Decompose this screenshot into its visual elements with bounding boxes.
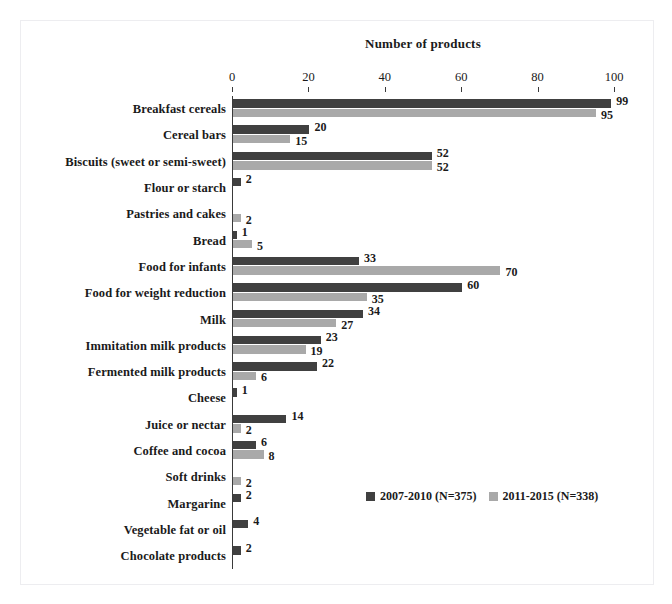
bar-series-2011-2015 [233,424,241,432]
chart-row: Breakfast cereals9995 [0,96,672,122]
bar-series-2011-2015 [233,266,500,274]
bar-series-2007-2010 [233,152,432,160]
bar-group: 9995 [233,96,672,122]
category-label: Pastries and cakes [126,207,226,222]
bar-value-label: 33 [364,251,376,266]
bar-value-label: 95 [601,108,613,123]
category-label: Biscuits (sweet or semi-sweet) [65,154,226,169]
bar-series-2011-2015 [233,109,596,117]
bar-value-label: 2 [246,488,252,503]
x-axis-tick-label: 80 [531,70,544,85]
legend-item: 2007-2010 (N=375) [366,489,477,504]
bar-series-2007-2010 [233,257,359,265]
bar-series-2007-2010 [233,283,462,291]
bar-value-label: 52 [437,146,449,161]
bar-series-2007-2010 [233,520,248,528]
bar-series-2011-2015 [233,293,367,301]
bar-series-2007-2010 [233,362,317,370]
chart-legend: 2007-2010 (N=375)2011-2015 (N=338) [366,489,598,504]
category-label: Milk [200,312,226,327]
category-label: Coffee and cocoa [133,444,226,459]
bar-series-2007-2010 [233,441,256,449]
category-label: Immitation milk products [86,338,226,353]
chart-row: Cereal bars2015 [0,122,672,148]
legend-item: 2011-2015 (N=338) [489,489,599,504]
bar-value-label: 99 [616,94,628,109]
category-label: Vegetable fat or oil [124,522,226,537]
bar-series-2011-2015 [233,161,432,169]
bar-value-label: 2 [246,541,252,556]
bar-value-label: 6 [261,435,267,450]
category-label: Breakfast cereals [133,102,226,117]
bar-value-label: 23 [326,330,338,345]
x-axis-tick-label: 20 [302,70,315,85]
bar-value-label: 8 [269,449,275,464]
bar-value-label: 34 [368,304,380,319]
bar-value-label: 20 [314,120,326,135]
bar-group: 1 [233,385,672,411]
bar-group: 4 [233,517,672,543]
x-axis-tick-label: 40 [379,70,392,85]
bar-group: 2 [233,543,672,569]
bar-group: 15 [233,227,672,253]
chart-row: Fermented milk products226 [0,359,672,385]
category-label: Soft drinks [166,470,227,485]
category-label: Chocolate products [121,549,226,564]
category-label: Cheese [188,391,226,406]
category-label: Food for weight reduction [85,286,226,301]
category-label: Bread [193,233,226,248]
chart-figure: Number of products 020406080100 Breakfas… [0,0,672,604]
bar-series-2007-2010 [233,310,363,318]
bar-value-label: 1 [242,383,248,398]
bar-value-label: 1 [242,225,248,240]
bar-series-2011-2015 [233,319,336,327]
bar-value-label: 15 [295,134,307,149]
bar-value-label: 27 [341,318,353,333]
bar-series-2007-2010 [233,231,237,239]
legend-label: 2011-2015 (N=338) [503,489,599,504]
bar-series-2007-2010 [233,178,241,186]
x-axis-tick-mark [614,87,615,92]
bar-series-2011-2015 [233,345,306,353]
bar-value-label: 22 [322,356,334,371]
bar-series-2011-2015 [233,240,252,248]
chart-row: Biscuits (sweet or semi-sweet)5252 [0,149,672,175]
category-label: Cereal bars [163,128,226,143]
bar-value-label: 70 [505,265,517,280]
bar-series-2011-2015 [233,477,241,485]
chart-row: Coffee and cocoa68 [0,438,672,464]
bar-series-2011-2015 [233,372,256,380]
bar-series-2007-2010 [233,388,237,396]
bar-value-label: 2 [246,423,252,438]
bar-series-2007-2010 [233,125,309,133]
x-axis-tick-label: 0 [229,70,235,85]
bar-group: 3370 [233,254,672,280]
bar-series-2007-2010 [233,99,611,107]
chart-row: Pastries and cakes2 [0,201,672,227]
bar-series-2007-2010 [233,336,321,344]
bar-value-label: 4 [253,514,259,529]
chart-row: Flour or starch2 [0,175,672,201]
legend-label: 2007-2010 (N=375) [380,489,477,504]
chart-row: Immitation milk products2319 [0,333,672,359]
bar-group: 6035 [233,280,672,306]
chart-row: Vegetable fat or oil4 [0,517,672,543]
chart-row: Bread15 [0,227,672,253]
bar-value-label: 19 [311,344,323,359]
category-label: Fermented milk products [88,365,226,380]
category-label: Juice or nectar [145,417,226,432]
bar-value-label: 6 [261,370,267,385]
category-label: Food for infants [139,259,227,274]
chart-row: Juice or nectar142 [0,412,672,438]
chart-row: Milk3427 [0,306,672,332]
legend-swatch-icon [489,492,498,501]
bar-group: 226 [233,359,672,385]
bar-group: 68 [233,438,672,464]
chart-row: Cheese1 [0,385,672,411]
bar-value-label: 52 [437,160,449,175]
bar-series-2011-2015 [233,214,241,222]
bar-value-label: 60 [467,278,479,293]
x-axis-tick-mark [538,87,539,92]
x-axis-tick-mark [232,87,233,92]
chart-row: Food for weight reduction6035 [0,280,672,306]
